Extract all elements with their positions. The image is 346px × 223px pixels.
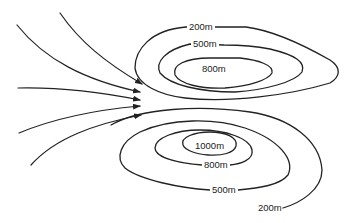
north-contour-500m xyxy=(159,44,303,92)
contour-labels: 200m 500m 800m 1000m 800m 500m 200m xyxy=(187,21,282,213)
label-south-200m: 200m xyxy=(258,202,282,213)
wind-arrow-3 xyxy=(18,88,140,100)
north-contour-200m xyxy=(135,27,338,100)
label-north-500m: 500m xyxy=(193,38,217,49)
wind-arrow-1 xyxy=(60,13,142,84)
north-hill xyxy=(135,27,338,100)
label-south-1000m: 1000m xyxy=(195,140,224,151)
label-south-800m: 800m xyxy=(204,159,228,170)
label-north-200m: 200m xyxy=(189,21,213,32)
south-contour-500m xyxy=(120,121,290,190)
wind-arrows xyxy=(17,13,142,165)
label-north-800m: 800m xyxy=(202,63,226,74)
contour-diagram: 200m 500m 800m 1000m 800m 500m 200m xyxy=(0,0,346,223)
label-south-500m: 500m xyxy=(212,184,236,195)
